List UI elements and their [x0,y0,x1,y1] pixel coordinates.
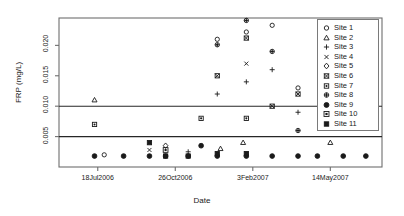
legend-item[interactable]: Site 10 [318,109,378,119]
square-box-icon [318,109,334,119]
series-points [147,62,248,152]
x-tick-label: 18Jul2006 [63,174,133,181]
square-dot-icon [318,81,334,91]
legend-item[interactable]: Site 11 [318,119,378,129]
frp-scatter-chart: FRP (mg/L) Date 0.0050.0100.0150.020 18J… [0,0,404,216]
filled-square-icon [318,119,334,129]
x-tick-label: 26Oct2006 [140,174,210,181]
series-points [92,97,333,150]
open-circle-icon [318,23,334,33]
series-points [92,143,368,158]
legend-label: Site 11 [334,119,357,129]
legend-item[interactable]: Site 7 [318,81,378,91]
legend-label: Site 6 [334,71,353,81]
legend-item[interactable]: Site 8 [318,90,378,100]
legend-item[interactable]: Site 2 [318,33,378,43]
x-axis-title: Date [0,196,404,205]
legend-item[interactable]: Site 3 [318,42,378,52]
filled-circle-icon [318,100,334,110]
x-tick-label: 14May2007 [295,174,365,181]
series-points [92,116,248,126]
series-points [215,18,300,132]
legend-label: Site 1 [334,23,353,33]
legend-label: Site 4 [334,52,353,62]
series-points [147,141,248,159]
legend-label: Site 5 [334,61,353,71]
legend-item[interactable]: Site 5 [318,61,378,71]
legend-item[interactable]: Site 9 [318,100,378,110]
series-points [215,36,300,108]
open-diamond-icon [318,61,334,71]
y-tick-label: 0.010 [42,90,49,120]
legend: Site 1Site 2Site 3Site 4Site 5Site 6Site… [317,19,379,131]
legend-label: Site 2 [334,33,353,43]
legend-item[interactable]: Site 4 [318,52,378,62]
legend-label: Site 8 [334,90,353,100]
open-triangle-icon [318,33,334,43]
x-tick-label: 3Feb2007 [218,174,288,181]
legend-label: Site 10 [334,109,357,119]
plus-icon [318,42,334,52]
y-tick-label: 0.005 [42,120,49,150]
legend-label: Site 7 [334,81,353,91]
square-cross-icon [318,71,334,81]
y-tick-label: 0.020 [42,29,49,59]
y-tick-label: 0.015 [42,59,49,89]
legend-label: Site 9 [334,100,353,110]
legend-item[interactable]: Site 1 [318,23,378,33]
series-points [186,67,301,154]
legend-item[interactable]: Site 6 [318,71,378,81]
legend-label: Site 3 [334,42,353,52]
y-axis-title: FRP (mg/L) [14,53,23,113]
cross-icon [318,52,334,62]
circle-plus-icon [318,90,334,100]
